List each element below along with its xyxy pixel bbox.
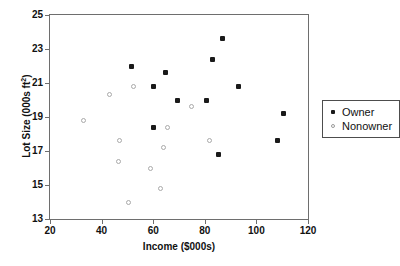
data-point-nonowner (81, 118, 86, 123)
y-axis-tick (45, 15, 50, 16)
legend-item-owner: Owner (328, 105, 392, 119)
y-axis-tick-label: 13 (32, 214, 43, 224)
y-axis-tick-label: 25 (32, 10, 43, 20)
x-axis-tick-label: 100 (248, 226, 265, 236)
y-axis-tick-label: 23 (32, 44, 43, 54)
data-point-nonowner (189, 104, 194, 109)
legend-item-nonowner: Nonowner (328, 119, 392, 133)
filled-square-icon (328, 110, 338, 114)
data-point-owner (204, 98, 209, 103)
data-point-nonowner (126, 200, 131, 205)
x-axis-tick (50, 219, 51, 224)
data-point-owner (216, 152, 221, 157)
data-point-nonowner (148, 166, 153, 171)
x-axis-tick-label: 40 (96, 226, 107, 236)
x-axis-tick (308, 219, 309, 224)
plot-area: 1315171921232520406080100120 (49, 14, 309, 220)
open-circle-icon (328, 124, 338, 128)
data-point-nonowner (107, 92, 112, 97)
x-axis-tick-label: 120 (300, 226, 317, 236)
data-point-nonowner (131, 84, 136, 89)
data-point-owner (275, 138, 280, 143)
y-axis-title: Lot Size (000s ft2) (20, 21, 32, 211)
y-axis-tick (45, 151, 50, 152)
data-point-nonowner (165, 125, 170, 130)
data-point-owner (175, 98, 180, 103)
data-point-owner (129, 64, 134, 69)
data-point-owner (163, 70, 168, 75)
data-point-owner (281, 111, 286, 116)
y-axis-tick-label: 15 (32, 180, 43, 190)
x-axis-tick-label: 80 (199, 226, 210, 236)
data-point-owner (210, 57, 215, 62)
legend: Owner Nonowner (322, 100, 400, 138)
y-axis-tick-label: 21 (32, 78, 43, 88)
data-point-owner (151, 125, 156, 130)
x-axis-title: Income ($000s) (49, 241, 309, 252)
data-point-owner (236, 84, 241, 89)
data-point-owner (151, 84, 156, 89)
legend-label-owner: Owner (342, 107, 374, 118)
data-point-nonowner (158, 186, 163, 191)
y-axis-tick-label: 19 (32, 112, 43, 122)
x-axis-tick (205, 219, 206, 224)
data-point-nonowner (117, 138, 122, 143)
data-point-nonowner (116, 159, 121, 164)
x-axis-tick-label: 60 (148, 226, 159, 236)
x-axis-tick (256, 219, 257, 224)
y-axis-tick-label: 17 (32, 146, 43, 156)
y-axis-tick (45, 83, 50, 84)
y-axis-tick (45, 117, 50, 118)
data-point-nonowner (161, 145, 166, 150)
legend-label-nonowner: Nonowner (342, 121, 392, 132)
y-axis-tick (45, 185, 50, 186)
x-axis-tick (153, 219, 154, 224)
x-axis-tick (102, 219, 103, 224)
data-point-nonowner (207, 138, 212, 143)
y-axis-tick (45, 49, 50, 50)
x-axis-tick-label: 20 (44, 226, 55, 236)
data-point-owner (220, 36, 225, 41)
